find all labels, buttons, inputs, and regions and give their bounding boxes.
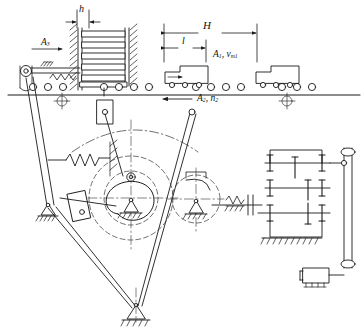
swing-arc bbox=[72, 130, 198, 152]
stacked-plates bbox=[82, 31, 125, 81]
label-a3: A3 bbox=[41, 38, 50, 48]
belt-drive bbox=[330, 148, 355, 268]
electric-motor bbox=[300, 268, 344, 287]
driven-disc bbox=[168, 168, 224, 232]
gear-train-reducer bbox=[258, 150, 330, 244]
ground-support-left bbox=[36, 203, 58, 221]
label-a1-vm1: A1, vm1 bbox=[213, 50, 238, 60]
gear bbox=[305, 203, 311, 224]
cam-disc-assembly bbox=[88, 120, 178, 250]
label-a1-rest: , v bbox=[222, 49, 231, 59]
label-h: h bbox=[79, 4, 84, 14]
gear bbox=[305, 180, 311, 200]
dimension-l bbox=[165, 40, 206, 62]
shaft-clutch-coupling bbox=[212, 195, 262, 215]
label-a2-n2: A2, n2 bbox=[197, 94, 218, 104]
rocker-arm-linkage bbox=[26, 77, 54, 206]
label-l: l bbox=[182, 36, 185, 46]
label-H: H bbox=[203, 20, 211, 31]
label-a3-sub: 3 bbox=[47, 41, 50, 47]
stack-magazine-feeder bbox=[70, 24, 137, 90]
diagram-canvas: h H l A1, vm1 A2, n2 A3 bbox=[0, 0, 364, 332]
upper-link-pivot bbox=[189, 109, 195, 115]
label-a2-nsub: 2 bbox=[215, 97, 218, 103]
label-a2-rest: , n bbox=[206, 93, 216, 103]
workpiece-box-right bbox=[256, 66, 299, 88]
schematic-svg bbox=[0, 0, 364, 332]
label-a1-vsub: m1 bbox=[231, 53, 238, 59]
workpiece-box-left bbox=[165, 66, 208, 88]
gear bbox=[292, 157, 298, 178]
